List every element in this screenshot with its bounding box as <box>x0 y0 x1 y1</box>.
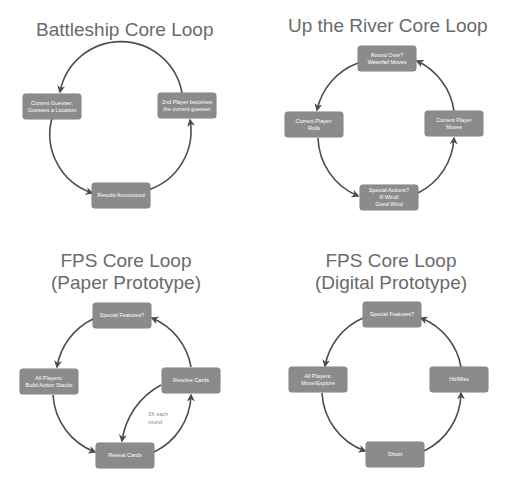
node-results-announced: Results Announced <box>92 183 150 208</box>
node-reveal-cards: Reveal Cards <box>96 443 154 468</box>
panel-1-title: Battleship Core Loop <box>36 19 196 41</box>
panel-3-title-line2: (Paper Prototype) <box>46 272 206 294</box>
node-second-player: 2nd Player becomes the current guesser <box>158 93 216 118</box>
arrow-p2-bottomleft <box>318 138 358 196</box>
node-resolve-cards: Resolve Cards <box>162 368 220 393</box>
arrow-p2-topleft <box>317 63 358 110</box>
arrow-p1-left <box>50 118 92 193</box>
arrow-p4-topleft <box>325 318 363 366</box>
panel-2-title: Up the River Core Loop <box>288 15 478 37</box>
node-current-player-rolls: Current Player: Rolls <box>285 112 343 137</box>
node-build-action-stacks: All Players: Build Action Stacks <box>20 369 78 394</box>
arrow-p1-right <box>148 120 191 190</box>
arrow-p3-topleft <box>57 319 93 367</box>
node-shoot: Shoot <box>366 442 424 467</box>
panel-3-title-line1: FPS Core Loop <box>46 250 206 272</box>
arrow-p4-topright <box>421 318 461 367</box>
arrow-p2-bottomright <box>418 138 454 193</box>
node-special-actions: Special Actions? Ill Wind/ Good Wind <box>360 185 418 210</box>
panel-4-title-line1: FPS Core Loop <box>311 250 471 272</box>
arrow-p4-bottomleft <box>322 393 365 451</box>
arrow-p1-top <box>60 42 182 93</box>
arrow-p3-topright <box>152 318 191 367</box>
node-current-player-moves: Current Player Moves <box>425 111 483 136</box>
arrow-p4-bottomright <box>424 393 461 451</box>
note-3x-each-round: 3X each round <box>148 410 168 426</box>
loop-arrows <box>0 0 506 480</box>
node-special-features-paper: Special Features? <box>93 303 151 328</box>
node-hit-miss: Hit/Miss <box>430 367 488 392</box>
node-move-explore: All Players: Move/Explore <box>289 367 347 392</box>
arrow-p3-bottomleft <box>53 395 95 452</box>
arrow-p2-topright <box>417 61 454 111</box>
node-special-features-digital: Special Features? <box>363 302 421 327</box>
node-current-guesser: Current Guesser: Guesses a Location <box>23 94 81 119</box>
node-round-over: Round Over? Waterfall Moves <box>358 46 416 71</box>
panel-4-title-line2: (Digital Prototype) <box>301 272 481 294</box>
